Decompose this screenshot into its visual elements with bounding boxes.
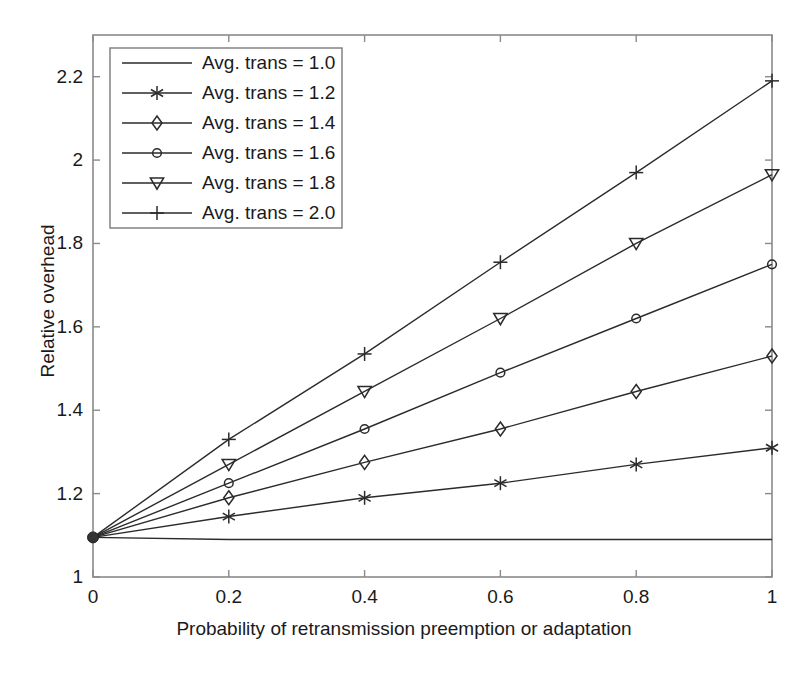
- x-tick-label: 0.6: [487, 586, 513, 608]
- x-tick-label: 0.4: [351, 586, 377, 608]
- x-tick-label: 0: [88, 586, 99, 608]
- y-tick-label: 2: [72, 149, 83, 171]
- y-tick-label: 1.6: [57, 316, 83, 338]
- y-tick-label: 1.2: [57, 483, 83, 505]
- y-tick-label: 1: [72, 566, 83, 588]
- y-tick-label: 2.2: [57, 66, 83, 88]
- legend-entry-label: Avg. trans = 1.4: [202, 112, 335, 134]
- y-tick-label: 1.4: [57, 399, 83, 421]
- x-tick-label: 0.8: [623, 586, 649, 608]
- figure-canvas: Probability of retransmission preemption…: [0, 0, 808, 673]
- x-axis-label: Probability of retransmission preemption…: [0, 618, 808, 640]
- legend-entry-label: Avg. trans = 2.0: [202, 202, 335, 224]
- x-tick-label: 0.2: [216, 586, 242, 608]
- legend-box: [110, 48, 342, 228]
- legend-entry-label: Avg. trans = 1.0: [202, 52, 335, 74]
- x-tick-label: 1: [767, 586, 778, 608]
- legend-entry-label: Avg. trans = 1.6: [202, 142, 335, 164]
- y-tick-label: 1.8: [57, 232, 83, 254]
- legend-entry-label: Avg. trans = 1.2: [202, 82, 335, 104]
- legend-entry-label: Avg. trans = 1.8: [202, 172, 335, 194]
- chart-plot-area: [0, 0, 808, 673]
